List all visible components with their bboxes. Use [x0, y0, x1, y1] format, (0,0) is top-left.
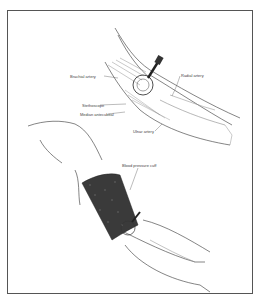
label-stethoscope: Stethoscope [82, 103, 104, 108]
upper-arm-drawing [105, 28, 240, 145]
label-median-antecubital: Median antecubital [80, 112, 114, 117]
label-ulnar-artery: Ulnar artery [133, 129, 154, 134]
label-blood-pressure-cuff: Blood pressure cuff [122, 163, 156, 168]
leader-lines-upper [100, 76, 180, 131]
blood-pressure-cuff [82, 174, 138, 240]
label-brachial-artery: Brachial artery [70, 74, 96, 79]
arm-illustration [0, 0, 260, 302]
label-radial-artery: Radial artery [181, 73, 204, 78]
